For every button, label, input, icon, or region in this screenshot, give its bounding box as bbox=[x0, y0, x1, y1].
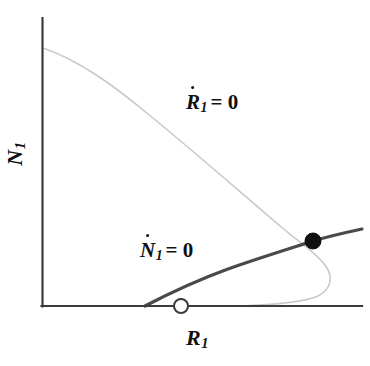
x-axis-label-var: R bbox=[186, 325, 201, 350]
r1-nullcline-label: R1= 0 bbox=[186, 92, 238, 115]
x-axis-label-subscript: 1 bbox=[201, 335, 208, 351]
plot-canvas bbox=[0, 0, 370, 366]
n-dot-variable: N bbox=[140, 240, 155, 261]
x-axis-label: R1 bbox=[186, 327, 208, 351]
n-dot-letter: N bbox=[140, 238, 155, 262]
phase-plane-figure: N1 R1 R1= 0 N1= 0 bbox=[0, 0, 370, 366]
n1-nullcline-label: N1= 0 bbox=[140, 240, 193, 263]
r-dot-subscript: 1 bbox=[201, 100, 208, 115]
n-dot-subscript: 1 bbox=[156, 248, 163, 263]
r-dot-letter: R bbox=[186, 90, 200, 114]
y-axis-label-var: N bbox=[2, 150, 27, 166]
n-dot-equation: = 0 bbox=[166, 238, 194, 262]
unstable-equilibrium-point bbox=[174, 299, 188, 313]
r-dot-equation: = 0 bbox=[210, 90, 238, 114]
y-axis-label-subscript: 1 bbox=[12, 142, 28, 149]
r1-nullcline-curve bbox=[43, 48, 330, 306]
stable-equilibrium-point bbox=[305, 233, 321, 249]
r-dot-variable: R bbox=[186, 92, 200, 113]
y-axis-label: N1 bbox=[4, 142, 28, 166]
